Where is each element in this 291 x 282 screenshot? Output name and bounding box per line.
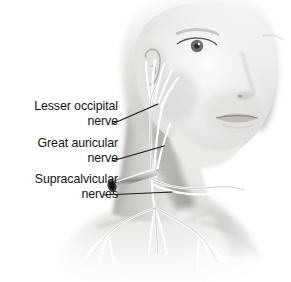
label-great-auricular-nerve: Great auricular nerve (6, 136, 118, 166)
label-great-auricular-line2: nerve (6, 151, 118, 166)
label-lesser-occipital-line1: Lesser occipital (6, 99, 118, 114)
label-supraclavicular-line1: Supracalvicular (2, 172, 118, 187)
label-lesser-occipital-nerve: Lesser occipital nerve (6, 99, 118, 129)
label-great-auricular-line1: Great auricular (6, 136, 118, 151)
label-supraclavicular-nerves: Supracalvicular nerves (2, 172, 118, 202)
cervical-plexus-figure: Lesser occipital nerve Great auricular n… (0, 0, 291, 282)
label-lesser-occipital-line2: nerve (6, 114, 118, 129)
label-supraclavicular-line2: nerves (2, 187, 118, 202)
